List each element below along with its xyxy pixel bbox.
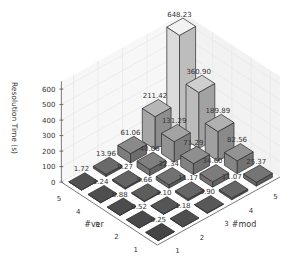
- ver-tick-label: 4: [76, 208, 81, 216]
- x-axis-label: #mod: [232, 220, 256, 229]
- bar-value-label: 1.18: [175, 202, 191, 210]
- bar-value-label: 1.24: [93, 178, 109, 186]
- chart-canvas: 01002003004005006001234512345 648.23211.…: [0, 0, 296, 257]
- z-tick-label: 500: [42, 101, 55, 109]
- y-axis-label: #ver: [84, 220, 104, 229]
- bar-value-label: 648.23: [167, 11, 192, 19]
- bar-value-label: 22.34: [159, 160, 180, 168]
- bar-value-label: 1.72: [74, 165, 90, 173]
- bar-value-label: 0.88: [112, 191, 128, 199]
- mod-tick-label: 3: [224, 220, 228, 228]
- bar-value-label: 360.90: [186, 68, 211, 76]
- bar-value-label: 9.27: [117, 163, 133, 171]
- bar-value-label: 11.17: [178, 174, 198, 182]
- bar3d-chart: 01002003004005006001234512345 648.23211.…: [0, 0, 296, 257]
- bar-value-label: 211.42: [143, 92, 168, 100]
- z-tick-label: 200: [42, 148, 55, 156]
- bar-value-label: 13.96: [96, 150, 117, 158]
- z-tick-label: 100: [42, 163, 55, 171]
- z-tick-label: 400: [42, 117, 55, 125]
- bar-value-label: 131.29: [162, 117, 187, 125]
- bar-value-label: 3.90: [199, 188, 215, 196]
- bar-value-label: 34.60: [203, 157, 223, 165]
- bar-value-label: 0.52: [131, 203, 147, 211]
- ver-tick-label: 1: [134, 246, 138, 254]
- mod-tick-label: 4: [249, 207, 254, 215]
- mod-tick-label: 1: [175, 247, 179, 255]
- bar-value-label: 3.10: [156, 189, 172, 197]
- ver-tick-label: 5: [57, 195, 61, 203]
- bar-value-label: 189.89: [206, 107, 231, 115]
- bar-value-label: 61.06: [120, 129, 141, 137]
- bar-value-label: 82.56: [227, 136, 248, 144]
- bar-value-label: 40.06: [140, 145, 161, 153]
- ver-tick-label: 2: [114, 233, 118, 241]
- z-tick-label: 0: [51, 179, 55, 187]
- bar-value-label: 0.25: [150, 216, 166, 224]
- z-tick-label: 600: [42, 86, 55, 94]
- mod-tick-label: 2: [200, 234, 204, 242]
- bar-value-label: 11.07: [222, 173, 242, 181]
- z-tick-label: 300: [42, 132, 55, 140]
- bar-value-label: 5.66: [137, 176, 153, 184]
- bar-value-label: 71.29: [183, 139, 203, 147]
- bar-value-label: 25.37: [246, 158, 266, 166]
- z-axis-label: Resolution Time (s): [10, 82, 19, 154]
- mod-tick-label: 5: [273, 193, 277, 201]
